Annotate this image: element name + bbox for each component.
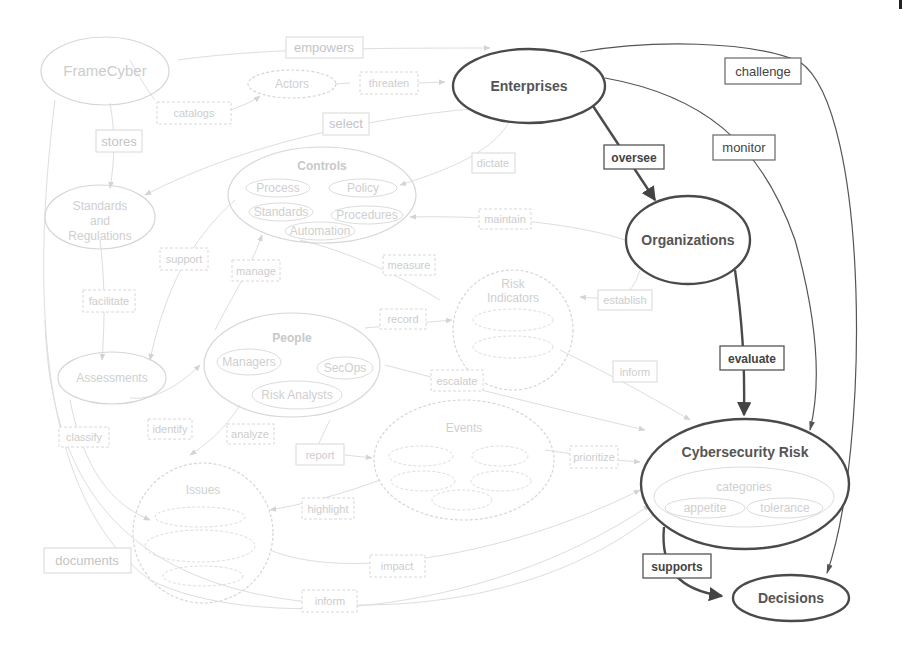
svg-text:escalate: escalate [437,375,478,387]
svg-text:Standards: Standards [254,205,309,219]
edge-label-oversee: oversee [604,145,664,169]
svg-text:dictate: dictate [477,157,509,169]
svg-text:record: record [387,313,418,325]
node-actors[interactable]: Actors [248,70,336,98]
svg-text:categories: categories [716,480,771,494]
svg-text:Issues: Issues [186,483,221,497]
edge-label-challenge: challenge [725,58,801,84]
issues-sub-items [145,507,255,586]
svg-text:Decisions: Decisions [758,590,824,606]
edge-label-report: report [296,444,344,465]
edge-label-manage: manage [232,260,280,281]
edge-label-impact: impact [370,555,425,577]
svg-text:People: People [272,331,312,345]
svg-text:threaten: threaten [369,77,409,89]
risk-indicators-sub-items [473,309,553,358]
svg-text:Risk Analysts: Risk Analysts [261,388,332,402]
svg-text:measure: measure [388,259,431,271]
svg-text:Indicators: Indicators [487,291,539,305]
svg-text:supports: supports [651,560,703,574]
controls-sub-items: Process Policy Standards Procedures Auto… [246,179,403,240]
svg-text:inform: inform [315,595,346,607]
edge-label-supports: supports [643,554,711,578]
svg-text:oversee: oversee [611,151,657,165]
svg-text:challenge: challenge [735,64,791,79]
svg-text:select: select [329,116,363,131]
svg-text:evaluate: evaluate [728,352,776,366]
svg-text:tolerance: tolerance [760,501,810,515]
edge-label-establish: establish [598,290,652,310]
svg-text:catalogs: catalogs [174,107,215,119]
node-enterprises[interactable]: Enterprises [453,49,605,123]
edge-label-support: support [160,248,208,270]
svg-text:Procedures: Procedures [336,208,397,222]
svg-text:maintain: maintain [484,213,526,225]
svg-text:stores: stores [101,134,137,149]
node-decisions[interactable]: Decisions [733,575,849,621]
svg-text:Managers: Managers [222,355,275,369]
svg-text:classify: classify [66,431,103,443]
edge-label-stores: stores [96,130,142,152]
svg-text:facilitate: facilitate [89,295,129,307]
svg-text:Actors: Actors [275,77,309,91]
edge-label-measure: measure [383,255,435,275]
edge-label-threaten: threaten [360,72,418,94]
edge-label-highlight: highlight [302,498,354,519]
svg-text:monitor: monitor [722,140,766,155]
people-sub-items: Managers SecOps Risk Analysts [217,349,373,409]
svg-text:Regulations: Regulations [68,229,131,243]
node-events[interactable]: Events [374,400,554,520]
edge-label-evaluate: evaluate [720,346,784,370]
svg-text:impact: impact [381,560,413,572]
node-standards-regulations[interactable]: Standards and Regulations [45,185,155,249]
edge-label-documents: documents [44,548,131,573]
node-framecyber[interactable]: FrameCyber [41,37,169,105]
svg-text:Enterprises: Enterprises [490,78,567,94]
edge-label-catalogs: catalogs [157,102,231,124]
edge-label-facilitate: facilitate [83,290,135,312]
edge-label-analyze: analyze [227,424,274,444]
svg-text:Events: Events [446,421,483,435]
svg-text:empowers: empowers [294,40,354,55]
svg-text:Policy: Policy [347,181,379,195]
svg-text:Assessments: Assessments [76,371,147,385]
svg-text:Controls: Controls [297,159,347,173]
edge-label-dictate: dictate [472,153,515,173]
edge-label-inform-lower: inform [302,590,357,612]
edge-label-classify: classify [59,427,109,447]
svg-text:appetite: appetite [684,501,727,515]
svg-text:inform: inform [620,366,651,378]
svg-text:manage: manage [236,265,276,277]
svg-text:support: support [166,253,203,265]
svg-text:identify: identify [153,423,188,435]
svg-text:Automation: Automation [290,224,351,238]
node-assessments[interactable]: Assessments [58,352,166,404]
edge-label-prioritize: prioritize [570,446,618,468]
edge-label-escalate: escalate [431,370,483,391]
edge-label-empowers: empowers [286,37,363,58]
svg-text:Process: Process [256,181,299,195]
svg-text:Organizations: Organizations [641,232,735,248]
svg-text:Standards: Standards [73,199,128,213]
svg-text:FrameCyber: FrameCyber [63,62,146,79]
svg-text:Risk: Risk [501,277,525,291]
edge-label-monitor: monitor [713,135,775,160]
concept-map: FrameCyber Actors Standards and Regulati… [0,0,903,649]
svg-text:analyze: analyze [231,428,269,440]
edge-label-record: record [380,309,426,329]
edge-label-maintain: maintain [479,209,531,229]
svg-text:documents: documents [55,553,119,568]
svg-text:establish: establish [603,294,646,306]
events-sub-items [389,446,531,510]
edge-label-select: select [323,113,369,135]
svg-text:report: report [306,449,335,461]
svg-text:SecOps: SecOps [324,361,367,375]
edge-label-inform: inform [613,361,657,382]
svg-text:highlight: highlight [308,503,349,515]
svg-text:and: and [90,214,110,228]
edge-label-identify: identify [148,419,192,439]
svg-text:Cybersecurity Risk: Cybersecurity Risk [682,444,809,460]
node-organizations[interactable]: Organizations [626,196,750,284]
svg-text:prioritize: prioritize [573,451,615,463]
